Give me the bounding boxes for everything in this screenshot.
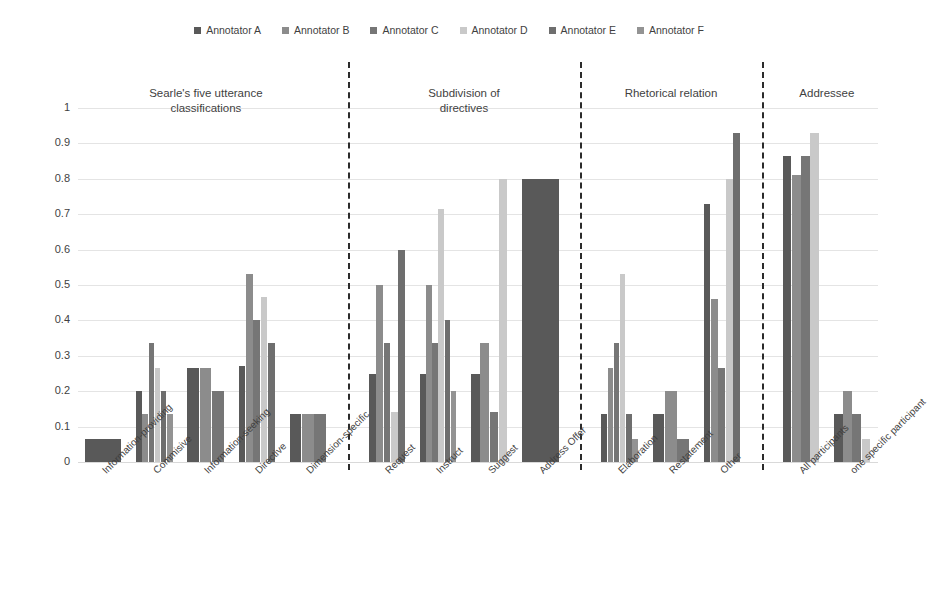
legend-swatch-icon [282, 27, 289, 34]
bar [783, 156, 792, 462]
bars-layer [78, 108, 878, 462]
bar [601, 414, 607, 462]
y-axis-tick-label: 0.5 [30, 278, 70, 290]
bar [290, 414, 302, 462]
legend-swatch-icon [637, 27, 644, 34]
bar [718, 368, 725, 462]
bar [438, 209, 444, 462]
bar [471, 374, 480, 463]
bar [253, 320, 260, 462]
panel-separator [762, 62, 764, 470]
legend-item[interactable]: Annotator E [549, 24, 616, 36]
legend-label: Annotator E [561, 24, 616, 36]
bar [302, 414, 314, 462]
bar [432, 343, 438, 462]
panel-title-line1: Rhetorical relation [594, 86, 747, 101]
bar [733, 133, 740, 462]
panel-title: Subdivision ofdirectives [362, 86, 567, 116]
legend-label: Annotator D [472, 24, 528, 36]
bar [239, 366, 246, 462]
bar [614, 343, 620, 462]
bar [200, 368, 212, 462]
panel-title: Rhetorical relation [594, 86, 747, 101]
legend-label: Annotator A [206, 24, 261, 36]
bar [149, 343, 155, 462]
bar [480, 343, 489, 462]
panel-title: Addressee [776, 86, 878, 101]
y-axis-tick-label: 0.8 [30, 172, 70, 184]
panel-title-line2: classifications [78, 101, 334, 116]
legend-swatch-icon [460, 27, 467, 34]
y-axis-tick-label: 0.2 [30, 384, 70, 396]
bar [490, 412, 499, 462]
chart-legend: Annotator AAnnotator BAnnotator CAnnotat… [0, 24, 898, 36]
bar [726, 179, 733, 462]
legend-item[interactable]: Annotator B [282, 24, 349, 36]
legend-swatch-icon [194, 27, 201, 34]
panel-title-line1: Addressee [776, 86, 878, 101]
panel-separator [348, 62, 350, 470]
legend-item[interactable]: Annotator A [194, 24, 261, 36]
legend-label: Annotator C [382, 24, 438, 36]
legend-swatch-icon [370, 27, 377, 34]
y-axis-tick-label: 0.7 [30, 207, 70, 219]
bar [792, 175, 801, 462]
bar [499, 179, 508, 462]
y-axis-tick-label: 0.3 [30, 349, 70, 361]
bar [369, 374, 376, 463]
bar [608, 368, 614, 462]
bar [187, 368, 199, 462]
bar [665, 391, 677, 462]
y-axis-tick-label: 0.4 [30, 313, 70, 325]
bar [398, 250, 405, 462]
legend-swatch-icon [549, 27, 556, 34]
bar [620, 274, 626, 462]
bar [261, 297, 268, 462]
y-axis-tick-label: 0.1 [30, 420, 70, 432]
y-axis-tick-label: 0.9 [30, 136, 70, 148]
legend-item[interactable]: Annotator F [637, 24, 704, 36]
bar [704, 204, 711, 462]
panel-title: Searle's five utteranceclassifications [78, 86, 334, 116]
bar [268, 343, 275, 462]
panel-title-line2: directives [362, 101, 567, 116]
legend-item[interactable]: Annotator C [370, 24, 438, 36]
y-axis-tick-label: 0.6 [30, 243, 70, 255]
panel-title-line1: Subdivision of [362, 86, 567, 101]
bar [810, 133, 819, 462]
y-axis-labels: 10.90.80.70.60.50.40.30.20.10 [30, 108, 70, 462]
legend-label: Annotator F [649, 24, 704, 36]
bar [801, 156, 810, 462]
bar [426, 285, 432, 462]
bar [445, 320, 451, 462]
bar [420, 374, 426, 463]
bar [522, 179, 558, 462]
panel-title-line1: Searle's five utterance [78, 86, 334, 101]
legend-item[interactable]: Annotator D [460, 24, 528, 36]
bar [384, 343, 391, 462]
y-axis-tick-label: 1 [30, 101, 70, 113]
legend-label: Annotator B [294, 24, 349, 36]
panel-separator [580, 62, 582, 470]
bar [376, 285, 383, 462]
x-axis-labels: Information-providingCommisiveInformatio… [0, 462, 898, 592]
